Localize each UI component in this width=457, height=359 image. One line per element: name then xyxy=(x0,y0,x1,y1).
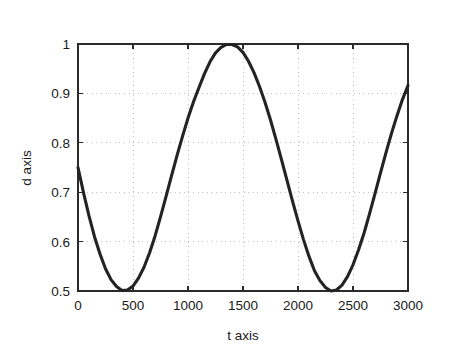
x-tick-label: 2500 xyxy=(338,298,368,313)
y-tick-label: 0.6 xyxy=(51,235,70,250)
x-tick-label: 500 xyxy=(122,298,145,313)
x-tick-label: 3000 xyxy=(393,298,423,313)
y-tick-label: 1 xyxy=(62,37,70,52)
y-tick-label: 0.5 xyxy=(51,284,70,299)
y-axis-tick-labels: 0.50.60.70.80.91 xyxy=(51,37,70,299)
y-tick-label: 0.9 xyxy=(51,86,70,101)
x-axis-tick-labels: 050010001500200025003000 xyxy=(74,298,423,313)
x-tick-label: 0 xyxy=(74,298,82,313)
x-tick-label: 1000 xyxy=(173,298,203,313)
y-axis-title: d axis xyxy=(19,150,34,186)
x-tick-label: 2000 xyxy=(283,298,313,313)
y-tick-label: 0.8 xyxy=(51,136,70,151)
x-axis-title: t axis xyxy=(227,328,259,343)
y-tick-label: 0.7 xyxy=(51,185,70,200)
plot-canvas: 050010001500200025003000 0.50.60.70.80.9… xyxy=(0,0,457,359)
x-tick-label: 1500 xyxy=(228,298,258,313)
chart-figure: 050010001500200025003000 0.50.60.70.80.9… xyxy=(0,0,457,359)
